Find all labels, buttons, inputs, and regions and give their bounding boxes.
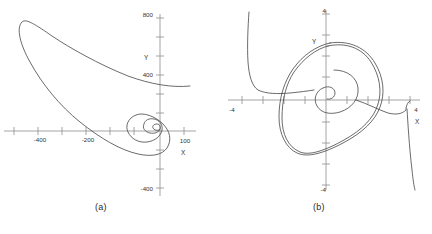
plot-a: -400 -200 100 800 400 -400 Y X bbox=[0, 0, 216, 205]
caption-b: (b) bbox=[216, 202, 432, 212]
x-tick-label-a-1: -200 bbox=[82, 136, 95, 143]
panel-b: 4 -4 -4 4 Y X (b) bbox=[216, 0, 432, 234]
y-axis-label-b: Y bbox=[312, 38, 317, 45]
orbit-inner-b bbox=[315, 70, 358, 113]
orbit-right-branch-b bbox=[356, 100, 410, 114]
orbit-far-right-b bbox=[407, 109, 415, 190]
panel-a: -400 -200 100 800 400 -400 Y X (a) bbox=[0, 0, 216, 234]
orbit-far-left-b bbox=[248, 12, 314, 94]
y-tick-label-a-1: 400 bbox=[143, 71, 154, 78]
y-axis-label-a: Y bbox=[144, 54, 149, 61]
y-tick-label-a-0: 800 bbox=[143, 11, 154, 18]
x-axis-label-b: X bbox=[415, 118, 420, 125]
y-tick-label-b-0: 4 bbox=[323, 7, 327, 14]
caption-a: (a) bbox=[0, 202, 216, 212]
x-tick-label-a-2: 100 bbox=[180, 137, 191, 144]
y-tick-label-a-2: -400 bbox=[141, 185, 154, 192]
plot-b: 4 -4 -4 4 Y X bbox=[216, 0, 432, 205]
x-axis-label-a: X bbox=[181, 149, 186, 156]
y-tick-label-b-1: -4 bbox=[320, 186, 326, 193]
figure-phase-portraits: -400 -200 100 800 400 -400 Y X (a) bbox=[0, 0, 432, 234]
x-tick-label-b-0: -4 bbox=[229, 106, 235, 113]
x-tick-label-a-0: -400 bbox=[34, 136, 47, 143]
x-tick-label-b-1: 4 bbox=[414, 106, 418, 113]
